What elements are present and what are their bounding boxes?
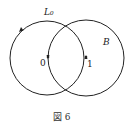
left-circle (10, 21, 84, 95)
figure-caption: 図 6 (53, 112, 71, 122)
point-0 (47, 56, 50, 59)
curve-label: L₀ (43, 7, 54, 17)
point-label-1: 1 (87, 59, 93, 69)
region-label: B (102, 37, 110, 47)
figure-diagram: L₀ B 0 1 図 6 (0, 0, 130, 127)
point-label-0: 0 (40, 58, 46, 68)
point-1 (85, 56, 88, 59)
